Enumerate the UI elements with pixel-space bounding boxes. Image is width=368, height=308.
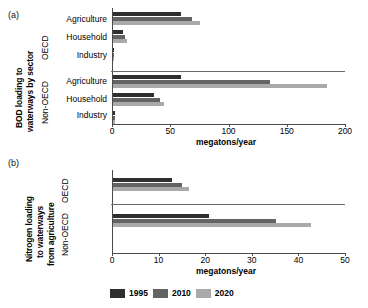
panel-b-group-label-non-oecd: Non-OECD — [60, 213, 70, 256]
tick-label-20: 20 — [191, 255, 219, 265]
panel-a-category-household-non-oecd: Household — [42, 94, 107, 104]
tick-label-10: 10 — [145, 255, 173, 265]
panel-b-tag: (b) — [8, 158, 19, 168]
bar-oecd-agriculture-2010 — [113, 183, 182, 187]
legend-item-2010[interactable]: 2010 — [153, 288, 191, 298]
panel-b-x-axis — [112, 253, 345, 254]
bar-oecd-industry-1995 — [113, 48, 114, 52]
tick-label-200: 200 — [331, 126, 359, 136]
panel-a-category-agriculture-oecd: Agriculture — [42, 14, 107, 24]
legend-item-2020[interactable]: 2020 — [196, 288, 234, 298]
bar-oecd-agriculture-2020 — [113, 21, 200, 25]
panel-b-ytitle-line3: from agriculture — [46, 202, 56, 266]
figure-root: (a) BOD loading to waterways by sector O… — [0, 0, 368, 308]
bar-non-oecd-household-2020 — [113, 102, 164, 106]
panel-b-ytitle-line2: to waterways — [35, 206, 45, 258]
legend-label-2020: 2020 — [215, 288, 234, 298]
legend-label-2010: 2010 — [172, 288, 191, 298]
tick-label-0: 0 — [98, 255, 126, 265]
bar-oecd-agriculture-1995 — [113, 178, 172, 182]
legend-label-1995: 1995 — [129, 288, 148, 298]
bar-oecd-household-1995 — [113, 30, 123, 34]
bar-non-oecd-agriculture-2020 — [113, 84, 327, 88]
legend-swatch-2020 — [196, 289, 211, 298]
bar-non-oecd-agriculture-2020 — [113, 223, 311, 227]
panel-b-xtitle: megatons/year — [196, 266, 256, 276]
panel-a-category-agriculture-non-oecd: Agriculture — [42, 76, 107, 86]
legend-swatch-1995 — [110, 289, 125, 298]
tick-label-50: 50 — [331, 255, 359, 265]
panel-a-ytitle-line2: waterways by sector — [25, 51, 35, 132]
tick-label-100: 100 — [215, 126, 243, 136]
bar-non-oecd-agriculture-1995 — [113, 214, 209, 218]
bar-oecd-agriculture-2020 — [113, 187, 189, 191]
bar-non-oecd-industry-2010 — [113, 116, 115, 120]
bar-oecd-agriculture-1995 — [113, 12, 181, 16]
panel-a-category-industry-non-oecd: Industry — [42, 110, 107, 120]
panel-b-ytitle-line1: Nitrogen loading — [24, 196, 34, 262]
bar-oecd-household-2010 — [113, 35, 125, 39]
bar-non-oecd-industry-1995 — [113, 111, 115, 115]
panel-a-plot-area — [112, 8, 345, 124]
legend-swatch-2010 — [153, 289, 168, 298]
tick-label-30: 30 — [238, 255, 266, 265]
panel-a-tag: (a) — [8, 10, 19, 20]
panel-a-ytitle-line1: BOD loading to — [14, 68, 24, 128]
bar-non-oecd-agriculture-2010 — [113, 219, 276, 223]
bar-non-oecd-household-1995 — [113, 93, 154, 97]
panel-b-group-separator — [111, 204, 345, 205]
legend: 199520102020 — [110, 288, 234, 298]
tick-label-40: 40 — [284, 255, 312, 265]
panel-a-group-separator — [111, 71, 345, 72]
bar-non-oecd-industry-2020 — [113, 120, 115, 124]
panel-a-y-axis — [112, 8, 113, 124]
bar-non-oecd-household-2010 — [113, 98, 160, 102]
panel-a-category-household-oecd: Household — [42, 32, 107, 42]
panel-a-xtitle: megatons/year — [196, 137, 256, 147]
bar-oecd-household-2020 — [113, 39, 127, 43]
panel-b-plot-area — [112, 170, 345, 253]
bar-non-oecd-agriculture-1995 — [113, 75, 181, 79]
legend-item-1995[interactable]: 1995 — [110, 288, 148, 298]
bar-non-oecd-agriculture-2010 — [113, 80, 270, 84]
tick-label-150: 150 — [273, 126, 301, 136]
bar-oecd-industry-2010 — [113, 53, 114, 57]
tick-label-50: 50 — [156, 126, 184, 136]
bar-oecd-industry-2020 — [113, 57, 114, 61]
bar-oecd-agriculture-2010 — [113, 17, 192, 21]
tick-label-0: 0 — [98, 126, 126, 136]
panel-b-group-label-oecd: OECD — [60, 178, 70, 203]
panel-a-category-industry-oecd: Industry — [42, 50, 107, 60]
